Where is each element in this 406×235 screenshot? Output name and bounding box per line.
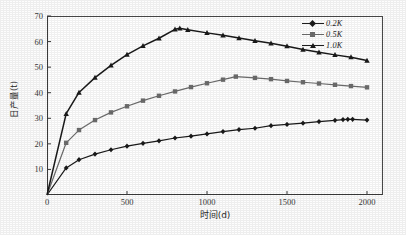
legend-item-0: 0.2K [300, 18, 376, 29]
data-point [269, 123, 274, 128]
data-point [173, 135, 178, 140]
series-0.2K [47, 117, 369, 195]
data-point [125, 144, 130, 149]
data-point [285, 122, 290, 127]
legend-item-1: 0.5K [300, 29, 376, 40]
data-point [173, 89, 177, 93]
data-point [77, 128, 81, 132]
data-point [125, 104, 129, 108]
legend-symbol-square [300, 29, 326, 40]
legend-label: 1.0K [326, 41, 343, 50]
data-point [333, 83, 337, 87]
legend-label: 0.2K [326, 19, 343, 28]
data-point [365, 85, 369, 89]
data-point [349, 84, 353, 88]
data-point [234, 74, 238, 78]
chart-figure: 10203040506070 0500100015002000 日产量(t) 时… [0, 0, 406, 235]
legend-item-2: 1.0K [300, 40, 376, 51]
data-point [189, 85, 193, 89]
legend-symbol-triangle [300, 40, 326, 51]
data-point [301, 80, 305, 84]
data-point [205, 81, 209, 85]
data-point [157, 94, 161, 98]
data-point [301, 121, 306, 126]
data-point [269, 77, 273, 81]
data-point [141, 141, 146, 146]
data-point [345, 117, 350, 122]
data-point [341, 117, 346, 122]
data-point [141, 98, 145, 102]
chart-legend: 0.2K 0.5K 1.0K [300, 18, 376, 51]
data-point [253, 126, 258, 131]
data-point [64, 141, 68, 145]
data-point [93, 151, 98, 156]
data-point [253, 76, 257, 80]
data-point [221, 129, 226, 134]
data-point [237, 127, 242, 132]
data-point [93, 118, 97, 122]
data-point [317, 81, 321, 85]
data-point [77, 157, 82, 162]
data-point [333, 118, 338, 123]
data-point [109, 110, 113, 114]
data-point [157, 138, 162, 143]
data-point [285, 79, 289, 83]
legend-symbol-diamond [300, 18, 326, 29]
data-point [350, 117, 355, 122]
data-point [189, 134, 194, 139]
data-point [205, 131, 210, 136]
data-point [221, 77, 225, 81]
data-point [109, 147, 114, 152]
legend-label: 0.5K [326, 30, 343, 39]
data-point [365, 117, 370, 122]
data-point [317, 119, 322, 124]
